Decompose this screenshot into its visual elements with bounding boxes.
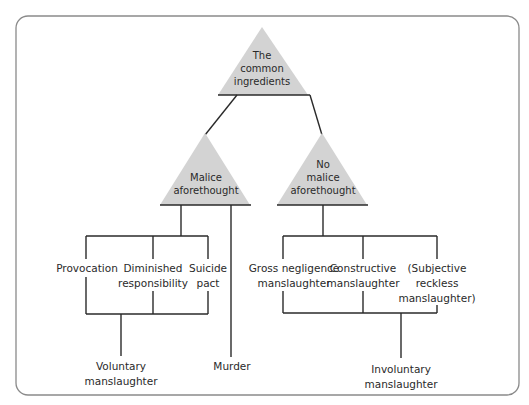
subjective-reckless-line-3: manslaughter) [398, 291, 475, 306]
no-malice-label: No malice aforethought [290, 158, 355, 197]
involuntary-line-1: Involuntary [364, 362, 437, 377]
no-malice-line-3: aforethought [290, 184, 355, 197]
common-ingredients-line-1: The [234, 49, 290, 62]
no-malice-line-1: No [290, 158, 355, 171]
provocation-text: Provocation [56, 261, 118, 276]
subjective-reckless-line-2: reckless [398, 276, 475, 291]
subjective-reckless-line-1: (Subjective [398, 261, 475, 276]
constructive-line-2: manslaughter [326, 276, 399, 291]
suicide-pact-label: Suicide pact [189, 261, 227, 291]
involuntary-line-2: manslaughter [364, 377, 437, 392]
homicide-structure-diagram: The common ingredients Malice aforethoug… [0, 0, 529, 405]
constructive-line-1: Constructive [326, 261, 399, 276]
involuntary-manslaughter-label: Involuntary manslaughter [364, 362, 437, 392]
constructive-manslaughter-label: Constructive manslaughter [326, 261, 399, 291]
murder-text: Murder [213, 359, 250, 374]
voluntary-manslaughter-label: Voluntary manslaughter [84, 359, 157, 389]
connector-to-no-malice [310, 95, 322, 135]
suicide-pact-line-2: pact [189, 276, 227, 291]
malice-line-1: Malice [173, 171, 238, 184]
no-malice-line-2: malice [290, 171, 355, 184]
provocation-label: Provocation [56, 261, 118, 276]
voluntary-line-2: manslaughter [84, 374, 157, 389]
diminished-line-1: Diminished [118, 261, 188, 276]
connector-to-malice [205, 95, 237, 135]
diminished-responsibility-label: Diminished responsibility [118, 261, 188, 291]
common-ingredients-label: The common ingredients [234, 49, 290, 88]
subjective-reckless-label: (Subjective reckless manslaughter) [398, 261, 475, 306]
murder-label: Murder [213, 359, 250, 374]
diminished-line-2: responsibility [118, 276, 188, 291]
malice-label: Malice aforethought [173, 171, 238, 197]
voluntary-line-1: Voluntary [84, 359, 157, 374]
suicide-pact-line-1: Suicide [189, 261, 227, 276]
malice-line-2: aforethought [173, 184, 238, 197]
common-ingredients-line-3: ingredients [234, 75, 290, 88]
common-ingredients-line-2: common [234, 62, 290, 75]
